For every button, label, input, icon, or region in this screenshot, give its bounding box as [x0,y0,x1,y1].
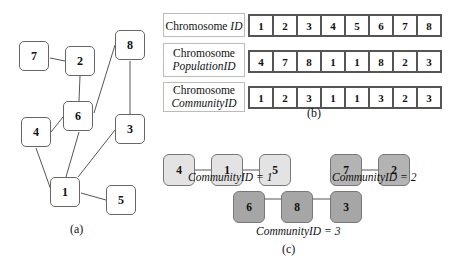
node-label: 4 [176,164,182,176]
node-label: 6 [75,109,81,124]
graph-node-7: 7 [19,41,49,71]
panel-b-caption: (b) [307,106,321,121]
gene-cell: 1 [250,16,272,35]
node-label: 6 [246,201,252,213]
gene-cell: 1 [346,52,368,71]
gene-cell: 5 [346,16,368,35]
graph-node-2: 2 [65,46,95,76]
gene-cell: 7 [394,16,416,35]
node-label: 3 [127,122,133,137]
gene-cell: 1 [346,88,368,107]
node-label: 7 [31,49,37,64]
gene-cell: 8 [418,16,440,35]
panel-a-caption: (a) [70,222,83,237]
gene-cell: 3 [418,88,440,107]
gene-cell: 2 [394,52,416,71]
node-label: 5 [118,193,124,208]
graph-node-5: 5 [106,185,136,215]
row-label-italic: ID [230,20,242,32]
node-label: 8 [294,201,300,213]
row-label-text: Chromosome [173,47,235,60]
community-3-node-6: 6 [233,191,265,223]
node-label: 5 [272,164,278,176]
row-label-italic: CommunityID [171,97,236,110]
community-2-caption: CommunityID = 2 [332,171,416,183]
gene-cell: 2 [274,16,296,35]
chromosome-community-id-strip: 1 2 3 1 1 3 2 3 [248,86,442,109]
gene-cell: 3 [298,16,320,35]
gene-cell: 1 [322,88,344,107]
row-label-community-id: Chromosome CommunityID [163,82,245,112]
gene-cell: 1 [322,52,344,71]
node-label: 1 [62,185,68,200]
panel-c-caption: (c) [282,242,295,257]
gene-cell: 2 [274,88,296,107]
graph-node-3: 3 [115,114,145,144]
gene-cell: 7 [274,52,296,71]
row-label-population-id: Chromosome PopulationID [163,43,245,77]
community-3-caption: CommunityID = 3 [256,225,340,237]
gene-cell: 8 [298,52,320,71]
gene-cell: 2 [394,88,416,107]
node-label: 2 [77,54,83,69]
gene-cell: 1 [250,88,272,107]
gene-cell: 3 [298,88,320,107]
gene-cell: 6 [370,16,392,35]
community-1-caption: CommunityID = 1 [188,171,272,183]
node-label: 4 [33,125,39,140]
graph-edges [0,0,459,262]
community-3-node-8: 8 [281,191,313,223]
node-label: 8 [127,38,133,53]
gene-cell: 4 [250,52,272,71]
gene-cell: 8 [370,52,392,71]
community-3-node-3: 3 [330,191,362,223]
node-label: 3 [343,201,349,213]
graph-node-8: 8 [115,30,145,60]
graph-node-4: 4 [21,117,51,147]
graph-node-1: 1 [50,177,80,207]
gene-cell: 3 [370,88,392,107]
row-label-id: Chromosome ID [163,13,245,37]
chromosome-id-strip: 1 2 3 4 5 6 7 8 [248,14,442,37]
chromosome-population-id-strip: 4 7 8 1 1 8 2 3 [248,50,442,73]
gene-cell: 4 [322,16,344,35]
row-label-text: Chromosome [173,84,235,97]
row-label-italic: PopulationID [172,60,235,73]
graph-node-6: 6 [63,101,93,131]
row-label-text: Chromosome [166,20,231,32]
gene-cell: 3 [418,52,440,71]
